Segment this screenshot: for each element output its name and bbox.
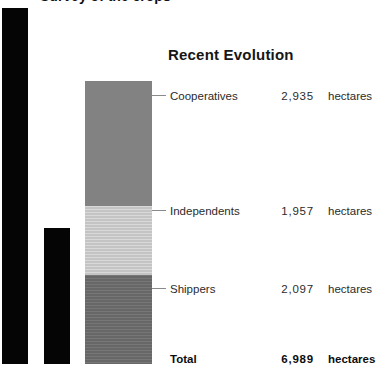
leader-line-icon — [152, 95, 166, 96]
legend-row-cooperatives: Cooperatives 2,935 hectares — [152, 88, 387, 104]
clipped-page-title: Survey of the crops — [0, 0, 387, 4]
legend-value-total: 6,989 — [242, 351, 314, 367]
stacked-segment-cooperatives[interactable] — [85, 81, 152, 206]
legend-label-shippers: Shippers — [170, 281, 215, 297]
leader-line-icon — [152, 210, 166, 211]
legend-unit-total: hectares — [328, 351, 375, 367]
legend-row-shippers: Shippers 2,097 hectares — [152, 281, 387, 297]
legend-unit-independents: hectares — [328, 203, 372, 219]
legend-label-independents: Independents — [170, 203, 240, 219]
stacked-bar — [85, 81, 152, 364]
legend-unit-cooperatives: hectares — [328, 88, 372, 104]
context-bar-2 — [44, 228, 70, 364]
stacked-segment-independents[interactable] — [85, 206, 152, 275]
chart-page: Survey of the crops Recent Evolution Coo… — [0, 0, 387, 375]
leader-line-icon — [152, 288, 166, 289]
legend-row-independents: Independents 1,957 hectares — [152, 203, 387, 219]
legend-value-shippers: 2,097 — [242, 281, 314, 297]
context-bar-1 — [2, 8, 28, 364]
page-title: Recent Evolution — [168, 46, 294, 63]
legend-row-total: Total 6,989 hectares — [152, 351, 387, 367]
legend-label-cooperatives: Cooperatives — [170, 88, 238, 104]
legend-unit-shippers: hectares — [328, 281, 372, 297]
legend-value-independents: 1,957 — [242, 203, 314, 219]
legend-label-total: Total — [170, 351, 197, 367]
stacked-segment-shippers[interactable] — [85, 275, 152, 364]
legend-value-cooperatives: 2,935 — [242, 88, 314, 104]
